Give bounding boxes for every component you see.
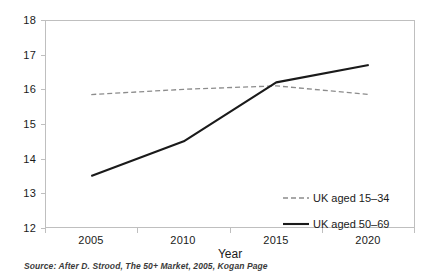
- line-chart-figure: 18 17 16 15 14 13 12 2005 2010 2015 2020…: [0, 0, 430, 278]
- legend-label-uk-aged-50-69: UK aged 50–69: [313, 218, 389, 230]
- y-axis-label-17: 17: [2, 50, 36, 61]
- y-tickmark-16: [41, 89, 45, 90]
- x-tickmark-2: [230, 228, 231, 233]
- source-note: Source: After D. Strood, The 50+ Market,…: [24, 261, 268, 271]
- y-axis-label-15: 15: [2, 119, 36, 130]
- x-tickmark-1: [137, 228, 138, 233]
- x-axis-label-2005: 2005: [56, 234, 126, 246]
- y-tickmark-18: [41, 20, 45, 21]
- legend-dashed-line-icon: [283, 193, 309, 203]
- y-axis-label-14: 14: [2, 154, 36, 165]
- legend-label-uk-aged-15-34: UK aged 15–34: [313, 192, 389, 204]
- x-axis-title: Year: [45, 248, 415, 261]
- legend-item-uk-aged-50-69[interactable]: UK aged 50–69: [283, 215, 413, 232]
- x-axis-label-2010: 2010: [148, 234, 218, 246]
- y-tickmark-14: [41, 159, 45, 160]
- y-axis-label-16: 16: [2, 84, 36, 95]
- y-tickmark-13: [41, 193, 45, 194]
- y-axis-label-12: 12: [2, 223, 36, 234]
- legend-item-uk-aged-15-34[interactable]: UK aged 15–34: [283, 189, 413, 206]
- y-axis-label-13: 13: [2, 188, 36, 199]
- y-axis-label-18: 18: [2, 15, 36, 26]
- legend-solid-line-icon: [283, 219, 309, 229]
- y-tickmark-17: [41, 55, 45, 56]
- x-tickmark-start: [45, 228, 46, 233]
- x-tickmark-end: [414, 228, 415, 233]
- chart-legend: UK aged 15–34 UK aged 50–69: [283, 189, 413, 241]
- y-tickmark-15: [41, 124, 45, 125]
